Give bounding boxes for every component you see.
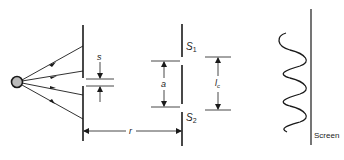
diagram-canvas: s S1 S2 a r lc Screen (0, 0, 344, 160)
distance-label: r (129, 126, 133, 136)
slit2-label: S2 (186, 112, 197, 124)
ray-arrow-icon (50, 86, 56, 89)
light-source (12, 77, 23, 88)
light-rays (22, 46, 83, 119)
slit-width-dimension (86, 62, 114, 102)
slit-separation-label: a (161, 79, 166, 89)
coherence-length-label: lc (215, 78, 220, 89)
ray-arrow-icon (49, 99, 55, 104)
interference-pattern (279, 33, 306, 132)
screen-label: Screen (314, 131, 339, 140)
slit-width-label: s (97, 52, 102, 62)
slit1-label: S1 (186, 41, 197, 53)
